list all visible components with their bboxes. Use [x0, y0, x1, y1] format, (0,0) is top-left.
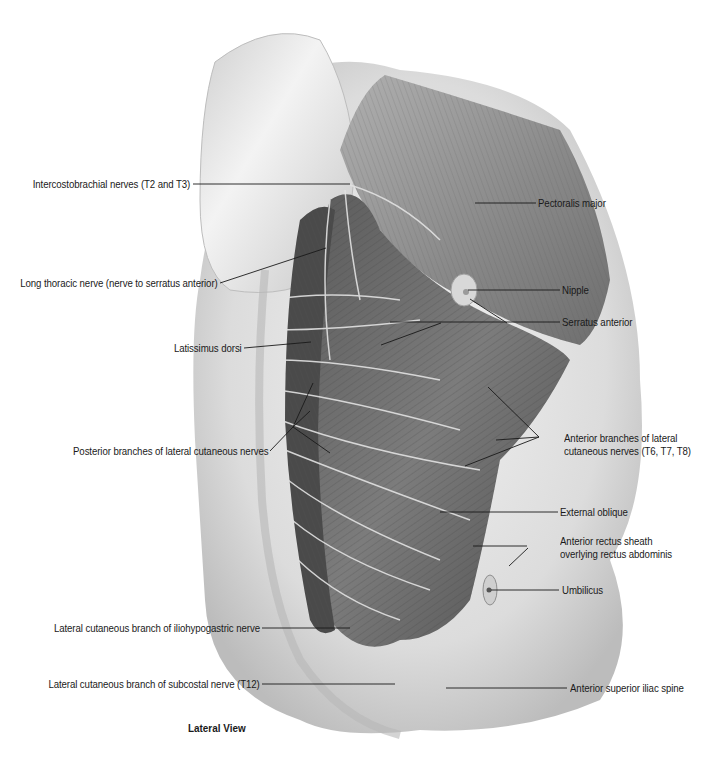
label-posterior-branches: Posterior branches of lateral cutaneous … [73, 445, 269, 457]
label-long-thoracic-nerve: Long thoracic nerve (nerve to serratus a… [21, 277, 218, 289]
label-anterior-branches-line2: cutaneous nerves (T6, T7, T8) [564, 445, 691, 457]
label-anterior-branches-line1: Anterior branches of lateral [564, 432, 677, 444]
label-nipple: Nipple [562, 284, 589, 296]
label-latissimus-dorsi: Latissimus dorsi [174, 342, 242, 354]
label-anterior-superior-iliac-spine: Anterior superior iliac spine [570, 682, 684, 694]
label-subcostal-branch: Lateral cutaneous branch of subcostal ne… [49, 678, 260, 690]
label-umbilicus: Umbilicus [562, 584, 603, 596]
anatomy-illustration [0, 0, 712, 773]
label-serratus-anterior: Serratus anterior [562, 316, 632, 328]
label-iliohypogastric-branch: Lateral cutaneous branch of iliohypogast… [54, 622, 260, 634]
label-intercostobrachial-nerves: Intercostobrachial nerves (T2 and T3) [32, 178, 190, 190]
label-rectus-sheath-line1: Anterior rectus sheath [560, 535, 652, 547]
view-caption: Lateral View [188, 722, 246, 734]
label-rectus-sheath-line2: overlying rectus abdominis [560, 548, 672, 560]
label-pectoralis-major: Pectoralis major [538, 197, 606, 209]
label-external-oblique: External oblique [560, 506, 628, 518]
